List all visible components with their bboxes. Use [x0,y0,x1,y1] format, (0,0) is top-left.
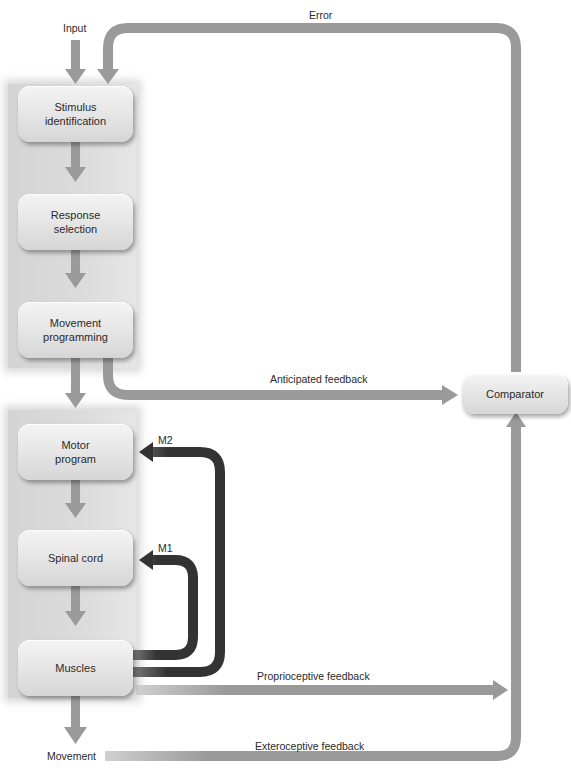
proprioceptive-feedback-label: Proprioceptive feedback [257,670,370,682]
m2-label: M2 [158,434,173,446]
error-arrow [97,28,516,372]
movement-label: Movement [47,750,96,762]
anticipated-feedback-label: Anticipated feedback [270,373,367,385]
response-selection-box: Response selection [18,194,133,250]
motor-program-box: Motor program [18,424,133,480]
movement-programming-box: Movement programming [18,302,133,358]
input-label: Input [63,22,86,34]
comparator-box: Comparator [462,374,568,414]
exteroceptive-feedback-arrow [105,412,526,756]
error-label: Error [309,9,332,21]
m1-label: M1 [158,542,173,554]
input-arrow [65,40,86,84]
exteroceptive-feedback-label: Exteroceptive feedback [255,740,364,752]
muscles-box: Muscles [18,640,133,696]
m1-loop-arrow [133,550,193,655]
proprioceptive-feedback-arrow [136,680,508,700]
stimulus-identification-box: Stimulus identification [18,86,133,142]
spinal-cord-box: Spinal cord [18,530,133,586]
